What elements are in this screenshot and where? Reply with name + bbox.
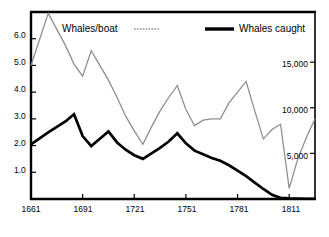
y-axis-label-right-15000: 15,000	[272, 60, 308, 69]
y-axis-label-right-10000: 10,000	[272, 106, 308, 115]
legend-label-whales-per-boat: Whales/boat	[62, 24, 118, 34]
y-axis-label-right-5000: 5,000	[272, 152, 308, 161]
y-axis-label-left-2: 2.0	[14, 139, 26, 148]
x-axis-label-1781: 1781	[221, 205, 257, 214]
legend-label-whales-caught: Whales caught	[239, 24, 305, 34]
x-axis-label-1811: 1811	[273, 205, 309, 214]
y-axis-label-left-4: 4.0	[14, 85, 26, 94]
series-line-whales-per-boat	[31, 13, 315, 188]
x-axis-label-1691: 1691	[65, 205, 101, 214]
chart-figure: Whales/boat Whales caught 6.0 5.0 4.0 3.…	[0, 0, 329, 237]
y-axis-label-left-1: 1.0	[14, 166, 26, 175]
y-axis-label-left-3: 3.0	[14, 112, 26, 121]
y-axis-label-left-6: 6.0	[14, 31, 26, 40]
x-axis-label-1661: 1661	[13, 205, 49, 214]
chart-canvas	[0, 0, 329, 237]
x-axis-label-1751: 1751	[169, 205, 205, 214]
x-axis-label-1721: 1721	[117, 205, 153, 214]
y-axis-label-left-5: 5.0	[14, 58, 26, 67]
